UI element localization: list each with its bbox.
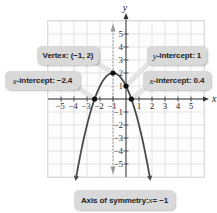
point-vertex: [110, 70, 115, 75]
x-intercept-left-callout: x-intercept: −2.4: [5, 71, 80, 90]
y-axis-arrow-icon: [124, 13, 129, 19]
vertex-value: (−1, 2): [71, 51, 94, 60]
axis-of-symmetry-eq: = −1: [152, 196, 168, 205]
y-tick-label: −1: [113, 107, 123, 117]
y-intercept-callout: y-intercept: 1: [147, 46, 207, 65]
y-tick-label: −3: [113, 133, 123, 143]
y-intercept-label: -intercept: 1: [157, 51, 202, 60]
x-intercept-right-callout: x-intercept: 0.4: [143, 71, 211, 90]
x-tick-label: −4: [68, 101, 78, 111]
y-tick-label: −4: [113, 146, 123, 156]
x-tick-label: −3: [81, 101, 91, 111]
x-tick-label: 1: [137, 101, 142, 111]
y-axis-label: y: [122, 2, 128, 13]
x-tick-label: 5: [189, 101, 194, 111]
y-tick-label: −5: [113, 159, 123, 169]
point-y-intercept: [123, 83, 128, 88]
x-axis-label: x: [211, 93, 217, 104]
vertex-callout: Vertex: (−1, 2): [37, 46, 99, 65]
point-x-intercept: [92, 96, 97, 101]
y-tick-label: 5: [119, 29, 124, 39]
vertex-label: Vertex:: [43, 51, 69, 60]
axis-of-symmetry-callout: Axis of symmetry: x = −1: [74, 190, 175, 210]
axis-of-symmetry-label: Axis of symmetry:: [81, 196, 149, 205]
x-tick-label: 2: [150, 101, 155, 111]
y-tick-label: 3: [119, 55, 124, 65]
curve-arrow-icon: [147, 176, 152, 181]
x-intercept-right-label: -intercept: 0.4: [153, 76, 204, 85]
x-tick-label: −5: [55, 101, 65, 111]
x-intercept-left-label: -intercept: −2.4: [17, 76, 73, 85]
curve-arrow-icon: [74, 176, 79, 181]
x-tick-label: 3: [163, 101, 168, 111]
x-axis-arrow-icon: [203, 97, 209, 102]
y-tick-label: 4: [119, 42, 124, 52]
x-tick-label: 4: [176, 101, 181, 111]
y-tick-label: 1: [119, 81, 124, 91]
point-x-intercept: [129, 96, 134, 101]
y-tick-label: −2: [113, 120, 123, 130]
parabola-chart: xy−5−4−3−2−112345−5−4−3−2−112345: [0, 0, 217, 213]
x-tick-label: −2: [94, 101, 104, 111]
